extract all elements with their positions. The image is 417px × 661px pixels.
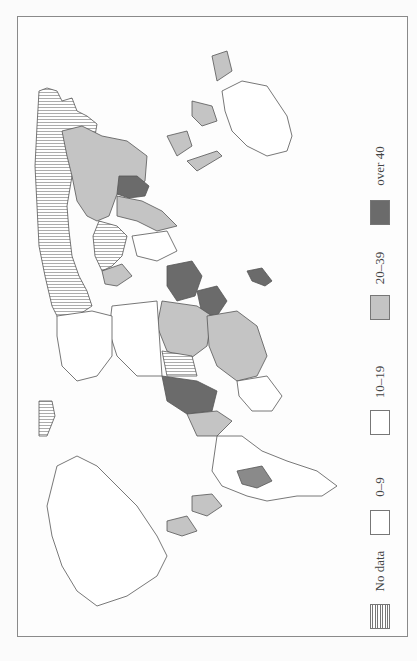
region-west-africa [187,411,232,436]
region-africa-south [207,311,267,381]
region-philippines [212,51,232,81]
legend-swatch-no-data [370,604,390,629]
legend-swatch-20-39 [370,295,390,320]
region-indonesia-1 [167,131,192,156]
legend-label-0-9: 0–9 [368,472,392,502]
region-arabia [132,231,177,261]
legend-label-no-data: No data [368,543,392,598]
legend-label-10-19: 10–19 [368,362,392,402]
region-west-africa-dark [162,376,217,414]
legend-label-20-39: 20–39 [368,248,392,288]
region-south-america [212,436,337,501]
region-central-asia [93,221,127,271]
region-africa-south-tip [237,376,282,411]
region-central-america [167,516,197,536]
legend-swatch-10-19 [370,410,390,435]
legend-swatch-0-9 [370,510,390,535]
region-greenland [39,401,55,436]
region-north-africa [109,301,162,376]
region-andes [192,494,222,516]
world-map [17,16,408,637]
region-north-america [47,456,167,606]
region-india [117,196,177,231]
region-madagascar [247,268,272,286]
legend-swatch-over-40 [370,200,390,225]
legend-label-over-40: over 40 [368,140,392,192]
region-horn-africa-dark [167,261,202,301]
region-europe [57,311,112,381]
region-indonesia-2 [187,151,222,171]
region-borneo [192,101,217,126]
region-australia [222,81,292,156]
